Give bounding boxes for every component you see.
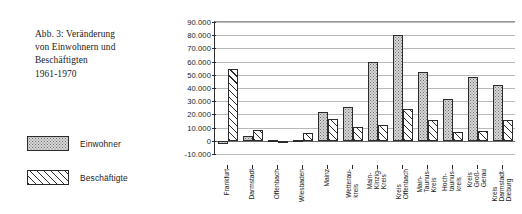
bar-group [415, 22, 440, 154]
x-axis-tick-label: Main-Kinzig-Kreis [366, 169, 388, 189]
bar-beschaeftigte [303, 133, 313, 141]
bar-beschaeftigte [453, 132, 463, 140]
bar-beschaeftigte [228, 69, 238, 141]
y-axis-tick-label: 70.000 [187, 44, 211, 53]
bar-einwohner [393, 35, 403, 140]
y-axis-tick-label: 50.000 [187, 70, 211, 79]
bar-group [315, 22, 340, 154]
x-axis-label-cell: KreisGroß-Gerau [465, 169, 490, 214]
bar-beschaeftigte [328, 119, 338, 141]
x-axis-tick-label: KreisGroß-Gerau [467, 169, 489, 187]
x-axis-tick-label: Hoch-taunus-kreis [441, 169, 463, 191]
bar-group [390, 22, 415, 154]
caption-line-3: Beschäftigten [35, 54, 175, 67]
bar-series-container [215, 22, 515, 154]
y-axis-tick-label: 90.000 [187, 18, 211, 27]
bar-einwohner [218, 141, 228, 144]
x-axis-label-cell: Offenbach [264, 169, 289, 214]
y-axis-tick-label: 60.000 [187, 57, 211, 66]
x-axis-tick-label: Main-Taunus-Kreis [416, 169, 438, 192]
legend-item-einwohner: Einwohner [27, 136, 128, 151]
y-axis-tick-label: 40.000 [187, 84, 211, 93]
bar-chart: 90.00080.00070.00060.00050.00040.00030.0… [168, 14, 518, 204]
caption-line-4: 1961-1970 [35, 68, 175, 81]
x-axis-label-cell: KreisOffenbach [390, 169, 415, 214]
bar-group [490, 22, 515, 154]
bar-einwohner [318, 112, 328, 141]
legend-label-einwohner: Einwohner [80, 139, 121, 149]
bar-einwohner [418, 72, 428, 140]
x-axis-tick-label: Frankfurt [223, 169, 230, 195]
x-axis-label-cell: Wetterau-kreis [339, 169, 364, 214]
legend-item-beschaeftigte: Beschäftigte [27, 170, 128, 185]
y-axis-tick-label: 0 [207, 136, 211, 145]
y-axis-tick-label: 10.000 [187, 123, 211, 132]
x-axis-tick-label: Wiesbaden [298, 169, 305, 202]
bar-group [440, 22, 465, 154]
y-axis-tick-label: -10.000 [185, 150, 211, 159]
bar-einwohner [443, 99, 453, 141]
caption-line-1: Abb. 3: Veränderung [35, 28, 175, 41]
bar-beschaeftigte [378, 125, 388, 141]
x-axis-label-cell: Hoch-taunus-kreis [440, 169, 465, 214]
bar-einwohner [268, 140, 278, 142]
x-axis-tick-label: Darmstadt [248, 169, 255, 199]
y-axis-tick-label: 20.000 [187, 110, 211, 119]
x-axis-tick-label: Wetterau-kreis [345, 169, 359, 198]
bar-einwohner [293, 140, 303, 142]
bar-group [365, 22, 390, 154]
bar-group [265, 22, 290, 154]
plot-area: 90.00080.00070.00060.00050.00040.00030.0… [214, 21, 515, 154]
y-axis-tick-label: 30.000 [187, 97, 211, 106]
bar-einwohner [493, 85, 503, 140]
x-axis-label-cell: Frankfurt [214, 169, 239, 214]
bar-beschaeftigte [403, 109, 413, 140]
bar-group [240, 22, 265, 154]
bar-group [215, 22, 240, 154]
bar-einwohner [368, 62, 378, 141]
bar-beschaeftigte [503, 120, 513, 141]
bar-beschaeftigte [253, 130, 263, 141]
bar-einwohner [243, 136, 253, 141]
bar-beschaeftigte [478, 131, 488, 141]
bar-group [465, 22, 490, 154]
bar-einwohner [343, 107, 353, 141]
x-axis-label-cell: Wiesbaden [289, 169, 314, 214]
bar-group [290, 22, 315, 154]
x-axis-label-cell: Main-Taunus-Kreis [415, 169, 440, 214]
x-axis-tick-label: Offenbach [273, 169, 280, 199]
figure-caption: Abb. 3: Veränderung von Einwohnern und B… [35, 28, 175, 81]
bar-beschaeftigte [353, 127, 363, 141]
bar-beschaeftigte [428, 120, 438, 140]
gridline [215, 154, 515, 155]
y-tick-mark [212, 154, 216, 155]
legend-swatch-beschaeftigte-icon [27, 170, 69, 185]
chart-legend: Einwohner Beschäftigte [27, 136, 128, 204]
x-axis-label-cell: Darmstadt [239, 169, 264, 214]
x-axis-tick-label: Mainz [323, 169, 330, 187]
x-axis-label-cell: Mainz [314, 169, 339, 214]
x-axis-tick-label: KreisDarmstadt-Dieburg [492, 169, 514, 202]
bar-einwohner [468, 77, 478, 141]
x-axis-labels: FrankfurtDarmstadtOffenbachWiesbadenMain… [214, 169, 515, 214]
bar-group [340, 22, 365, 154]
legend-swatch-einwohner-icon [27, 136, 69, 151]
x-axis-tick-label: KreisOffenbach [395, 169, 409, 199]
y-axis-tick-label: 80.000 [187, 31, 211, 40]
x-axis-label-cell: KreisDarmstadt-Dieburg [490, 169, 515, 214]
x-axis-label-cell: Main-Kinzig-Kreis [364, 169, 389, 214]
caption-line-2: von Einwohnern und [35, 41, 175, 54]
bar-beschaeftigte [278, 141, 288, 143]
legend-label-beschaeftigte: Beschäftigte [80, 173, 128, 183]
